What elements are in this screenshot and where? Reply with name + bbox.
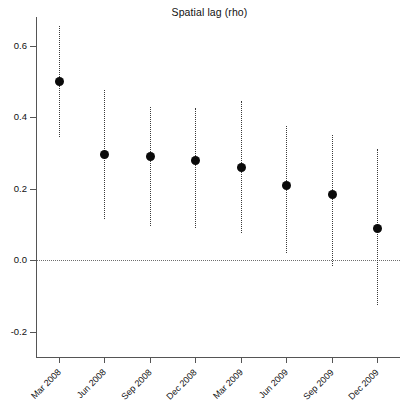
y-tick-mark: [30, 332, 36, 333]
x-tick-label: Dec 2009: [347, 367, 381, 401]
x-tick-label: Mar 2009: [211, 367, 245, 401]
x-axis-line: [36, 357, 400, 358]
y-tick-label: -0.2: [0, 326, 27, 337]
data-point-marker: [282, 181, 291, 190]
data-point-marker: [55, 77, 64, 86]
data-point-marker: [146, 152, 155, 161]
zero-reference-line: [37, 260, 400, 261]
y-tick-label: 0.4: [0, 111, 27, 122]
x-tick-mark: [286, 357, 287, 363]
y-tick-mark: [30, 117, 36, 118]
x-tick-mark: [195, 357, 196, 363]
x-tick-label: Sep 2009: [301, 367, 335, 401]
x-tick-label: Jun 2009: [257, 367, 290, 400]
data-point-marker: [191, 156, 200, 165]
y-tick-label: 0.2: [0, 183, 27, 194]
confidence-interval-bar: [150, 107, 151, 227]
x-tick-mark: [241, 357, 242, 363]
y-tick-mark: [30, 46, 36, 47]
chart-title: Spatial lag (rho): [0, 6, 419, 18]
x-tick-label: Mar 2008: [29, 367, 63, 401]
x-tick-mark: [150, 357, 151, 363]
confidence-interval-bar: [286, 126, 287, 253]
data-point-marker: [328, 190, 337, 199]
confidence-interval-bar: [195, 108, 196, 228]
x-tick-label: Sep 2008: [119, 367, 153, 401]
data-point-marker: [237, 163, 246, 172]
x-tick-mark: [59, 357, 60, 363]
x-tick-label: Dec 2008: [165, 367, 199, 401]
y-tick-mark: [30, 260, 36, 261]
y-tick-mark: [30, 189, 36, 190]
y-tick-label: 0.0: [0, 254, 27, 265]
data-point-marker: [373, 224, 382, 233]
chart-figure: Spatial lag (rho) -0.20.00.20.40.6 Mar 2…: [0, 0, 419, 410]
data-point-marker: [100, 150, 109, 159]
y-tick-label: 0.6: [0, 40, 27, 51]
x-tick-mark: [332, 357, 333, 363]
x-tick-mark: [377, 357, 378, 363]
x-tick-mark: [104, 357, 105, 363]
x-tick-label: Jun 2008: [75, 367, 108, 400]
y-axis-line: [36, 17, 37, 358]
confidence-interval-bar: [332, 135, 333, 266]
